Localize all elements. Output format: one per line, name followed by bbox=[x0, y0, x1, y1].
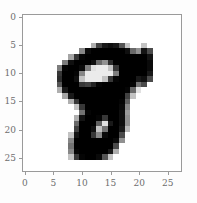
y-tick-mark bbox=[19, 73, 22, 74]
digit-image-grid bbox=[23, 15, 181, 171]
y-tick-label: 15 bbox=[0, 96, 16, 106]
pixel-cell bbox=[175, 165, 181, 171]
y-tick-mark bbox=[19, 17, 22, 18]
y-tick-label: 20 bbox=[0, 125, 16, 135]
x-tick-label: 10 bbox=[76, 178, 87, 188]
x-tick-label: 25 bbox=[162, 178, 173, 188]
y-tick-label: 10 bbox=[0, 68, 16, 78]
y-tick-mark bbox=[19, 130, 22, 131]
x-tick-label: 20 bbox=[133, 178, 144, 188]
x-tick-mark bbox=[111, 172, 112, 175]
x-tick-mark bbox=[168, 172, 169, 175]
x-tick-label: 0 bbox=[22, 178, 28, 188]
y-tick-mark bbox=[19, 158, 22, 159]
x-tick-label: 15 bbox=[105, 178, 116, 188]
y-tick-label: 25 bbox=[0, 153, 16, 163]
y-tick-mark bbox=[19, 101, 22, 102]
y-tick-label: 0 bbox=[0, 12, 16, 22]
plot-axes[interactable] bbox=[22, 14, 182, 172]
x-tick-mark bbox=[139, 172, 140, 175]
x-tick-label: 5 bbox=[51, 178, 57, 188]
x-tick-mark bbox=[25, 172, 26, 175]
x-tick-mark bbox=[53, 172, 54, 175]
y-tick-mark bbox=[19, 45, 22, 46]
y-tick-label: 5 bbox=[0, 40, 16, 50]
x-tick-mark bbox=[82, 172, 83, 175]
figure-canvas: 05101520250510152025 bbox=[0, 0, 197, 203]
